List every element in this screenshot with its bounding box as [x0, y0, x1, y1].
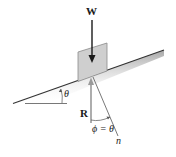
incline-friction-diagram: W R θ ϕ = θ n [0, 0, 176, 157]
friction-angle-label: ϕ = θ [92, 124, 114, 134]
weight-label: W [86, 6, 97, 17]
reaction-label: R [80, 108, 88, 119]
incline-angle-label: θ [64, 89, 69, 99]
diagram-canvas [0, 0, 176, 157]
normal-label: n [116, 136, 121, 146]
